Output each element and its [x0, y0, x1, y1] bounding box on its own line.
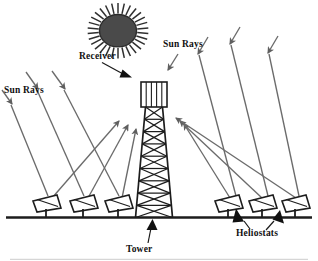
heliostat[interactable] — [249, 195, 277, 218]
solar-power-tower-diagram: Sun Rays Sun Rays Receiver Tower Heliost… — [0, 0, 318, 261]
reflected-ray — [176, 118, 296, 198]
heliostat[interactable] — [33, 195, 61, 218]
sun-ray-incoming — [230, 27, 240, 44]
label-receiver: Receiver — [79, 52, 116, 62]
receiver-callout — [102, 63, 132, 78]
tower-top-box — [141, 82, 167, 107]
tower-arrow-marker — [147, 219, 158, 230]
label-sun-rays-left: Sun Rays — [4, 86, 44, 96]
reflected-rays-left — [52, 121, 136, 198]
tower-callout — [147, 219, 158, 243]
diagram-canvas — [0, 0, 318, 261]
heliostat-field-left — [33, 195, 133, 218]
sun-ray-incoming-tail — [64, 90, 119, 196]
label-tower: Tower — [126, 245, 153, 255]
heliostats-arrow-marker-left — [233, 209, 245, 223]
sun-ray-incoming-tail — [269, 54, 299, 196]
heliostat[interactable] — [105, 195, 133, 218]
sun-ray-incoming-tail — [37, 90, 84, 196]
heliostat[interactable] — [282, 195, 310, 218]
reflected-ray — [180, 121, 262, 198]
sun-ray-incoming — [268, 36, 278, 53]
reflected-ray — [122, 129, 136, 198]
sun-ray-incoming — [52, 71, 65, 89]
sun-ray-incoming-tail — [11, 105, 48, 196]
label-heliostats: Heliostats — [236, 229, 278, 239]
sun-body — [100, 15, 137, 47]
sun-ray-incoming — [168, 54, 178, 70]
reflected-ray — [88, 125, 128, 198]
sun-ray-incoming-tail — [199, 55, 236, 196]
label-sun-rays-right: Sun Rays — [163, 40, 203, 50]
heliostat-field-right — [215, 195, 310, 218]
receiver-arrow-marker — [120, 70, 133, 78]
tower — [136, 82, 173, 218]
heliostat[interactable] — [70, 195, 98, 218]
reflected-rays-right — [176, 118, 296, 198]
